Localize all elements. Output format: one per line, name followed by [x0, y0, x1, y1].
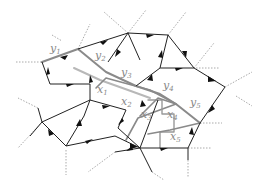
label-x3: x3	[141, 108, 152, 122]
label-y4: y4	[162, 79, 174, 93]
y-path	[42, 49, 200, 123]
arrow-icon	[126, 146, 133, 151]
arrow-icon	[66, 84, 74, 87]
label-y1: y1	[49, 42, 61, 56]
dotted-stubs	[16, 10, 252, 180]
arrow-icon	[158, 50, 163, 58]
label-y3: y3	[120, 66, 132, 80]
label-x5: x5	[170, 130, 181, 144]
label-x1: x1	[97, 83, 108, 97]
arrow-icon	[140, 100, 146, 107]
arrow-icon	[208, 105, 215, 113]
x-path-light	[74, 68, 150, 98]
graph-diagram: y1 y2 y3 y4 y5 x1 x2 x3 x4 x5	[0, 0, 262, 180]
label-x4: x4	[167, 108, 178, 122]
arrow-icon	[85, 139, 93, 144]
arrow-icon	[160, 148, 168, 151]
label-y2: y2	[94, 49, 106, 63]
arrow-icon	[208, 76, 216, 82]
label-y5: y5	[189, 96, 201, 110]
arrow-icon	[189, 127, 194, 135]
arrow-icon	[118, 118, 124, 125]
label-x2: x2	[121, 95, 132, 109]
arrow-icon	[175, 68, 183, 71]
arrow-icon	[46, 67, 50, 75]
